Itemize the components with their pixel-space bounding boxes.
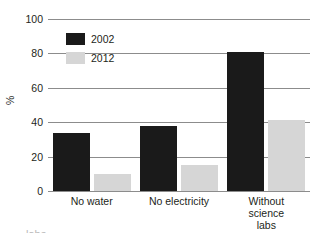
bar-2002-3 [227, 52, 264, 191]
y-tick-label: 60 [31, 83, 43, 94]
legend-swatch-2002-icon [66, 33, 85, 45]
bar-2002-1 [53, 133, 90, 191]
bar-2012-3 [268, 120, 305, 191]
axis-baseline: 0 [48, 191, 310, 192]
legend-item: 2012 [66, 50, 114, 66]
bar-chart: % 020406080100 No waterNo electricityWit… [0, 0, 319, 233]
bar-2002-2 [140, 126, 177, 191]
legend-swatch-2012-icon [66, 52, 85, 64]
x-category-label: No electricity [149, 196, 209, 208]
y-tick-label: 0 [37, 186, 43, 197]
y-tick-label: 80 [31, 48, 43, 59]
legend-label-2012: 2012 [91, 53, 114, 64]
legend-item: 2002 [66, 31, 114, 47]
legend-label-2002: 2002 [91, 34, 114, 45]
legend: 2002 2012 [66, 31, 114, 69]
cropped-caption-text: labs [26, 229, 46, 233]
bar-2012-2 [181, 165, 218, 191]
bar-2012-1 [94, 174, 131, 191]
gridline: 100 [48, 19, 310, 20]
x-category-label: Without science labs [244, 196, 288, 231]
gridline: 60 [48, 88, 310, 89]
y-axis-title: % [5, 96, 16, 105]
y-tick-label: 20 [31, 151, 43, 162]
cropped-caption: labs [26, 229, 296, 233]
x-category-label: No water [71, 196, 113, 208]
y-tick-label: 100 [25, 14, 43, 25]
y-tick-label: 40 [31, 117, 43, 128]
